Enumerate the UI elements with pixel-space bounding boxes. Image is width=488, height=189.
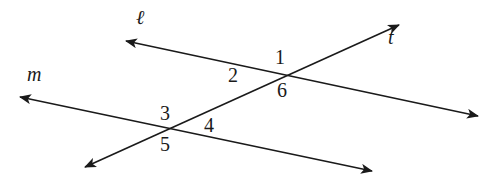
line-l	[126, 41, 478, 116]
angle-6-label: 6	[277, 79, 287, 101]
angle-4-label: 4	[204, 114, 214, 136]
diagram-canvas: ℓ m t 1 2 6 3 4 5	[0, 0, 488, 189]
angle-3-label: 3	[160, 102, 170, 124]
transversal-t-label: t	[388, 26, 394, 48]
line-m-label: m	[27, 63, 41, 85]
angle-5-label: 5	[160, 133, 170, 155]
angle-2-label: 2	[228, 64, 238, 86]
line-l-label: ℓ	[136, 6, 145, 28]
transversal-t	[85, 25, 399, 167]
line-m	[20, 97, 372, 171]
angle-1-label: 1	[275, 46, 285, 68]
